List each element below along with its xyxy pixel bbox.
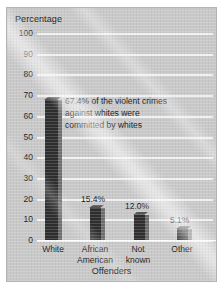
- y-tick-label: 10: [24, 214, 33, 224]
- y-tick-label: 60: [24, 111, 33, 121]
- y-tick-label: 20: [24, 194, 33, 204]
- gridline: [37, 178, 213, 180]
- bar-white[interactable]: [45, 100, 58, 240]
- x-tick-line-2: known: [111, 255, 165, 266]
- annotation-line-2: against whites were: [65, 107, 201, 119]
- y-tick-label: 90: [24, 49, 33, 59]
- chart-panel: Percentage 100 90 80 70 60 50 40 30 20 1…: [6, 7, 217, 282]
- chart-page: Percentage 100 90 80 70 60 50 40 30 20 1…: [0, 0, 224, 298]
- x-axis-line: [37, 240, 217, 241]
- bar-other[interactable]: [177, 229, 188, 240]
- gridline: [37, 157, 213, 159]
- y-tick-label: 70: [24, 90, 33, 100]
- gridline: [37, 33, 213, 35]
- plot-area: 100 90 80 70 60 50 40 30 20 10 0: [37, 33, 213, 240]
- gridline: [37, 54, 213, 56]
- y-tick-label: 80: [24, 69, 33, 79]
- y-axis-title: Percentage: [15, 14, 62, 24]
- annotation-callout: 67.4% of the violent crimes against whit…: [65, 95, 201, 131]
- bar-side-face: [145, 215, 149, 240]
- gridline: [37, 137, 213, 139]
- x-tick-line-1: Other: [155, 244, 209, 255]
- bar-side-face: [188, 229, 192, 240]
- annotation-line-1: 67.4% of the violent crimes: [65, 95, 201, 107]
- annotation-line-3: committed by whites: [65, 119, 201, 131]
- y-tick-label: 30: [24, 173, 33, 183]
- bar-not-known[interactable]: [134, 215, 145, 240]
- gridline: [37, 74, 213, 76]
- y-tick-label: 40: [24, 152, 33, 162]
- bar-value-label-not-known: 12.0%: [125, 201, 149, 211]
- bar-african-american[interactable]: [90, 208, 101, 240]
- y-tick-label: 100: [19, 28, 33, 38]
- bar-value-label-african-american: 15.4%: [81, 194, 105, 204]
- y-tick-label: 50: [24, 132, 33, 142]
- x-axis-title: Offenders: [7, 266, 216, 276]
- x-tick-label-other: Other: [155, 244, 209, 255]
- bar-value-label-other: 5.1%: [170, 215, 189, 225]
- bar-side-face: [58, 100, 62, 240]
- bar-side-face: [101, 208, 105, 240]
